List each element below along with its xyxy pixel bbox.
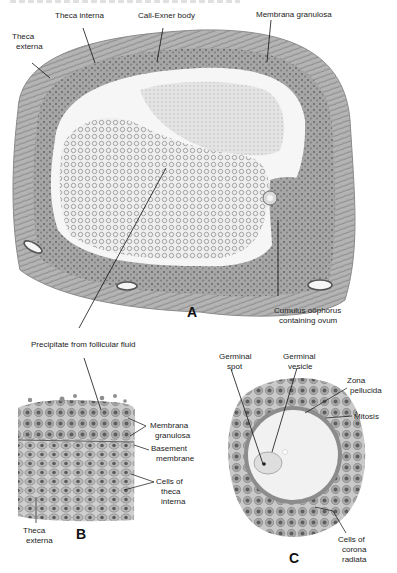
label-germinal-spot-line1: Germinal [219,352,251,361]
label-cumulus-line1: Cumulus oöphorus [274,306,341,315]
panel-letter-c: C [289,550,299,566]
ovarian-follicle-illustration [0,0,397,573]
label-precipitate: Precipitate from follicular fluid [31,340,135,349]
label-membrana-granulosa: Membrana granulosa [256,10,332,19]
panel-c-ovum [228,368,365,537]
label-theca-externa-b-line1: Theca [23,526,45,535]
label-germinal-spot-line2: spot [227,362,242,371]
label-membrana-b-line2: granulosa [155,431,190,440]
label-corona-line1: Cells of [338,535,365,544]
label-call-exner-body: Call-Exner body [138,11,195,20]
label-corona-line3: radiata [342,555,366,564]
label-zona-line2: pellucida [350,386,382,395]
panel-a-follicle [13,20,355,328]
label-theca-interna: Theca interna [55,11,104,20]
label-cells-theca-line2: theca [161,487,181,496]
label-theca-externa-a-line2: externa [16,42,43,51]
label-mitosis: Mitosis [354,412,379,421]
panel-b-wall-section [18,358,154,523]
panel-letter-b: B [76,526,86,542]
label-cells-theca-line3: interna [161,497,185,506]
label-cumulus-line2: containing ovum [279,316,337,325]
label-germinal-vesicle-line2: vesicle [288,362,312,371]
label-basement-line1: Basement [151,444,187,453]
panel-letter-a: A [187,304,197,320]
label-zona-line1: Zona [347,376,365,385]
label-corona-line2: corona [342,545,366,554]
label-membrana-b-line1: Membrana [150,421,188,430]
label-cells-theca-line1: Cells of [156,477,183,486]
label-germinal-vesicle-line1: Germinal [283,352,315,361]
label-theca-externa-b-line2: externa [26,536,53,545]
label-theca-externa-a-line1: Theca [12,32,34,41]
label-basement-line2: membrane [156,454,194,463]
